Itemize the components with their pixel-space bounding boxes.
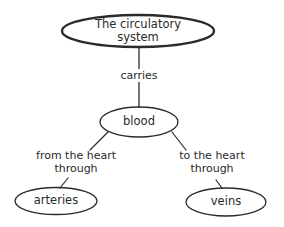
edge-label-carries: carries	[117, 69, 161, 82]
edge-blood-veins-upper	[172, 132, 186, 150]
edge-label-to-heart-line2: through	[167, 162, 257, 175]
edge-label-to-heart: to the heart through	[165, 149, 259, 175]
edge-blood-arteries-lower	[60, 178, 68, 188]
edge-blood-veins-lower	[216, 180, 222, 188]
root-node: The circulatory system	[78, 18, 198, 44]
veins-node: veins	[196, 195, 256, 208]
edge-blood-arteries-upper	[90, 132, 108, 150]
edge-label-from-heart-line1: from the heart	[30, 149, 122, 162]
edge-label-from-heart-line2: through	[30, 162, 122, 175]
root-node-line2: system	[78, 31, 198, 44]
edge-label-from-heart: from the heart through	[28, 149, 124, 175]
blood-node: blood	[109, 115, 169, 128]
edge-label-to-heart-line1: to the heart	[167, 149, 257, 162]
arteries-node: arteries	[21, 194, 91, 207]
